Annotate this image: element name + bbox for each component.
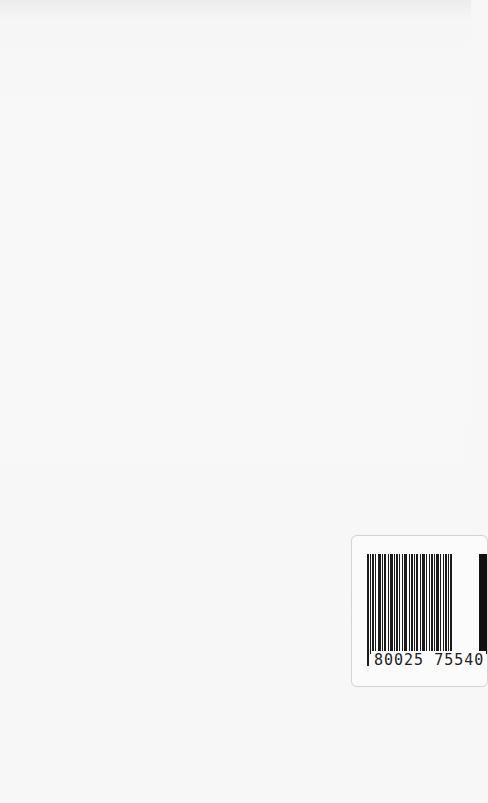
barcode-guard-bar bbox=[367, 554, 369, 666]
barcode-bars bbox=[367, 554, 487, 654]
barcode-edge-block bbox=[479, 554, 488, 654]
barcode-space bbox=[452, 554, 454, 654]
barcode-digits: 80025 75540 bbox=[372, 651, 486, 669]
barcode-label: 80025 75540 bbox=[351, 535, 488, 687]
